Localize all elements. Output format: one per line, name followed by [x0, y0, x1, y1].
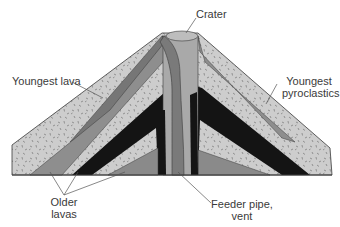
label-youngest-lava: Youngest lava [12, 75, 81, 87]
label-feeder-pipe: Feeder pipe, vent [210, 198, 274, 222]
label-older-lavas-line2: lavas [46, 208, 82, 220]
label-youngest-pyroclastics: Youngest pyroclastics [282, 75, 336, 99]
label-youngest-pyroclastics-line2: pyroclastics [282, 87, 336, 99]
leader-crater [186, 18, 196, 33]
label-older-lavas: Older lavas [46, 196, 82, 220]
pipe-edge-left [160, 110, 166, 175]
label-feeder-pipe-line2: vent [210, 210, 274, 222]
crater [166, 31, 198, 41]
volcano-cross-section [0, 0, 340, 227]
label-crater: Crater [196, 8, 227, 20]
label-feeder-pipe-line1: Feeder pipe, [210, 198, 274, 210]
pipe-edge-right [190, 92, 198, 175]
label-youngest-pyroclastics-line1: Youngest [282, 75, 336, 87]
label-older-lavas-line1: Older [46, 196, 82, 208]
leader-feeder-pipe [178, 172, 211, 203]
